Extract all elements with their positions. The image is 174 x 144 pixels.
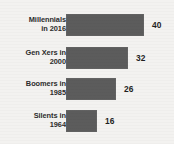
bar-track: 16 (66, 110, 97, 132)
bar-value-label: 40 (152, 20, 162, 30)
category-label: Boomers in 1985 (4, 80, 66, 97)
bar-value-label: 26 (124, 84, 134, 94)
bar (66, 47, 128, 69)
bar-row: Boomers in 1985 26 (0, 78, 174, 100)
bar-track: 40 (66, 14, 144, 36)
bar (66, 14, 144, 36)
category-label: Millennials in 2016 (4, 16, 66, 33)
category-label-line2: 1985 (4, 89, 66, 98)
bar-value-label: 16 (105, 116, 115, 126)
category-label-line2: in 2016 (4, 25, 66, 34)
bar (66, 110, 97, 132)
category-label: Gen Xers in 2000 (4, 49, 66, 66)
category-label-line2: 2000 (4, 58, 66, 67)
bar-track: 32 (66, 47, 128, 69)
bar-value-label: 32 (136, 53, 146, 63)
bar-row: Millennials in 2016 40 (0, 14, 174, 36)
category-label: Silents in 1964 (4, 112, 66, 129)
bar-row: Gen Xers in 2000 32 (0, 47, 174, 69)
bar-track: 26 (66, 78, 116, 100)
bar-chart: Millennials in 2016 40 Gen Xers in 2000 … (0, 0, 174, 144)
bar-row: Silents in 1964 16 (0, 110, 174, 132)
category-label-line2: 1964 (4, 121, 66, 130)
bar (66, 78, 116, 100)
